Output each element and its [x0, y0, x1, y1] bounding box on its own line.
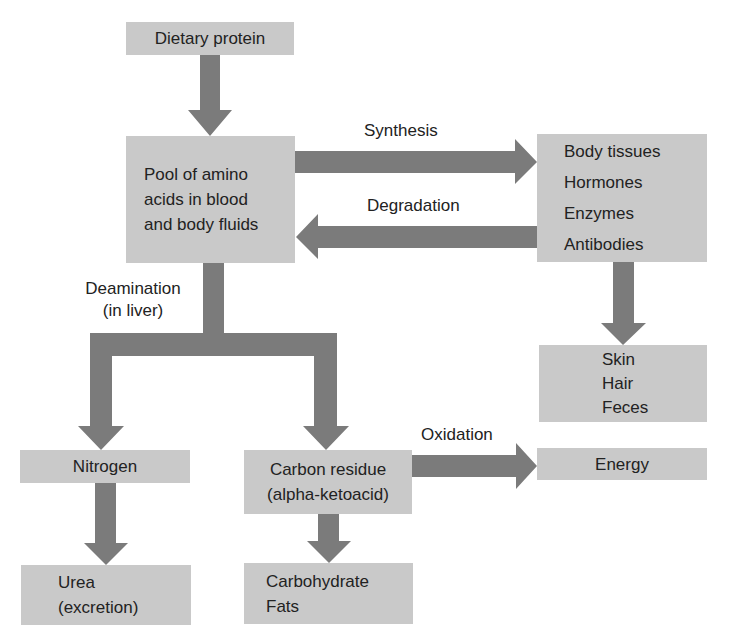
node-amino-acid-pool: Pool of amino acids in blood and body fl… [126, 136, 295, 263]
node-text: Carbohydrate [266, 569, 369, 594]
arrow-synthesis [295, 139, 537, 184]
label-deamination: Deamination (in liver) [78, 278, 188, 322]
node-text: Nitrogen [73, 454, 137, 479]
label-synthesis: Synthesis [364, 120, 438, 142]
label-text: Synthesis [364, 120, 438, 142]
node-text: Body tissues [564, 136, 660, 167]
label-degradation: Degradation [367, 195, 460, 217]
protein-metabolism-diagram: Dietary protein Pool of amino acids in b… [0, 0, 734, 639]
label-text: (in liver) [78, 300, 188, 322]
node-text: Carbon residue [270, 457, 386, 482]
node-text: acids in blood [144, 187, 248, 212]
node-text: (alpha-ketoacid) [267, 482, 389, 507]
node-text: Pool of amino [144, 162, 248, 187]
node-text: Urea [58, 570, 95, 595]
node-text: (excretion) [58, 595, 138, 620]
label-text: Degradation [367, 195, 460, 217]
node-urea: Urea (excretion) [21, 565, 191, 625]
node-text: and body fluids [144, 212, 258, 237]
node-text: Hormones [564, 167, 642, 198]
label-text: Oxidation [421, 424, 493, 446]
node-text: Fats [266, 594, 299, 619]
node-text: Hair [602, 372, 633, 396]
node-dietary-protein: Dietary protein [126, 22, 294, 55]
node-carbohydrate-fats: Carbohydrate Fats [244, 563, 413, 624]
arrow-nitrogen-to-urea [84, 483, 128, 565]
arrow-dietary-to-pool [188, 55, 232, 136]
node-text: Enzymes [564, 198, 634, 229]
node-nitrogen: Nitrogen [20, 450, 190, 483]
node-carbon-residue: Carbon residue (alpha-ketoacid) [244, 450, 412, 514]
node-text: Energy [595, 452, 649, 477]
node-skin-hair-feces: Skin Hair Feces [539, 345, 707, 422]
label-oxidation: Oxidation [421, 424, 493, 446]
arrow-tissues-to-skin [601, 262, 646, 345]
arrow-oxidation [412, 443, 537, 489]
node-text: Antibodies [564, 229, 643, 260]
node-text: Feces [602, 396, 648, 420]
label-text: Deamination [78, 278, 188, 300]
arrow-degradation [296, 214, 537, 259]
node-energy: Energy [537, 448, 707, 480]
node-body-tissues: Body tissues Hormones Enzymes Antibodies [537, 134, 707, 262]
node-text: Skin [602, 348, 635, 372]
arrow-carbon-to-carbohydrate [307, 514, 351, 563]
node-text: Dietary protein [155, 26, 266, 51]
